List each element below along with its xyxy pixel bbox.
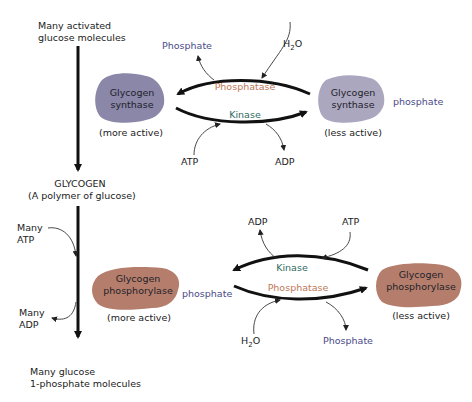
phosphate-output-arrow <box>198 56 214 80</box>
phosphate-output-arrow-phosphorylase <box>326 302 346 330</box>
many-atp-label: Many ATP <box>17 222 43 246</box>
start-label: Many activated glucose molecules <box>38 20 126 44</box>
many-adp-line1: Many <box>19 307 45 319</box>
enzyme-name-line1: Glycogen <box>102 87 162 99</box>
kinase-label: Kinase <box>262 262 322 274</box>
enzyme-name-line2: synthase <box>102 99 162 111</box>
atp-input-arrow-synthase <box>194 124 220 155</box>
adp-label: ADP <box>275 156 295 168</box>
enzyme-name-line2: phosphorylase <box>380 281 462 293</box>
adp-output-arrow <box>52 302 76 319</box>
atp-label: ATP <box>342 216 359 228</box>
end-label-line1: Many glucose <box>30 366 141 378</box>
h2o-input-arrow-phosphorylase <box>254 300 280 334</box>
adp-output-arrow-synthase <box>266 124 284 150</box>
phosphate-tag: phosphate <box>393 96 443 108</box>
many-adp-label: Many ADP <box>19 307 45 331</box>
atp-label: ATP <box>181 156 198 168</box>
state-more-active: (more active) <box>104 312 174 324</box>
state-less-active: (less active) <box>386 310 456 322</box>
glycogen-synthase-active: Glycogen synthase <box>102 87 162 111</box>
many-adp-line2: ADP <box>19 319 45 331</box>
many-atp-line2: ATP <box>17 234 43 246</box>
enzyme-name-line1: Glycogen <box>322 87 384 99</box>
state-less-active: (less active) <box>318 127 388 139</box>
kinase-label: Kinase <box>210 109 280 121</box>
glycogen-label: GLYCOGEN (A polymer of glucose) <box>28 178 132 202</box>
adp-label: ADP <box>248 216 268 228</box>
atp-input-arrow <box>48 228 76 256</box>
phosphatase-label: Phosphatase <box>262 282 334 294</box>
phosphate-tag: phosphate <box>182 288 232 300</box>
state-more-active: (more active) <box>96 127 166 139</box>
start-label-line1: Many activated <box>38 20 126 32</box>
glycogen-phosphorylase-inactive: Glycogen phosphorylase <box>380 269 462 293</box>
end-label: Many glucose 1-phosphate molecules <box>30 366 141 390</box>
atp-input-arrow-phosphorylase <box>322 232 350 258</box>
h2o-label: H2O <box>241 335 260 351</box>
end-label-line2: 1-phosphate molecules <box>30 378 141 390</box>
phosphate-output-label: Phosphate <box>162 40 212 52</box>
phosphate-output-label: Phosphate <box>323 335 373 347</box>
glycogen-phosphorylase-active: Glycogen phosphorylase <box>98 273 178 297</box>
start-label-line2: glucose molecules <box>38 32 126 44</box>
glycogen-subtitle: (A polymer of glucose) <box>28 190 132 202</box>
h2o-label: H2O <box>283 38 302 54</box>
enzyme-name-line2: phosphorylase <box>98 285 178 297</box>
enzyme-name-line1: Glycogen <box>98 273 178 285</box>
many-atp-line1: Many <box>17 222 43 234</box>
glycogen-synthase-inactive: Glycogen synthase <box>322 87 384 111</box>
adp-output-arrow-phosphorylase <box>260 230 276 258</box>
phosphatase-label: Phosphatase <box>210 81 280 93</box>
enzyme-name-line2: synthase <box>322 99 384 111</box>
enzyme-name-line1: Glycogen <box>380 269 462 281</box>
glycogen-title: GLYCOGEN <box>28 178 132 190</box>
